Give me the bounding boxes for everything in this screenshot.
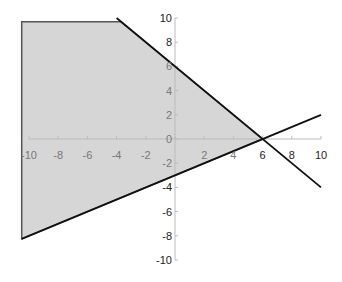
y-tick-label: 8: [166, 36, 172, 48]
x-tick-label: 10: [315, 149, 327, 161]
y-tick-label: 2: [166, 109, 172, 121]
y-tick-label: -8: [162, 230, 172, 242]
x-tick-label: -10: [21, 149, 37, 161]
x-tick-label: 2: [201, 149, 207, 161]
x-tick-label: 4: [230, 149, 236, 161]
x-tick-label: -8: [53, 149, 63, 161]
x-tick-label: -4: [112, 149, 122, 161]
y-tick-label: -4: [162, 181, 172, 193]
y-tick-label: -6: [162, 206, 172, 218]
x-tick-label: -2: [141, 149, 151, 161]
x-tick-label: 6: [260, 149, 266, 161]
chart: -10-8-6-4-2246810 1086420-2-4-6-8-10: [0, 0, 342, 282]
y-tick-label: 0: [166, 133, 172, 145]
y-tick-label: -10: [156, 254, 172, 266]
y-tick-label: 6: [166, 60, 172, 72]
y-tick-label: 10: [160, 12, 172, 24]
shaded-region: [22, 22, 263, 239]
y-tick-label: -2: [162, 157, 172, 169]
x-tick-label: -6: [83, 149, 93, 161]
x-tick-label: 8: [289, 149, 295, 161]
y-tick-label: 4: [166, 85, 172, 97]
